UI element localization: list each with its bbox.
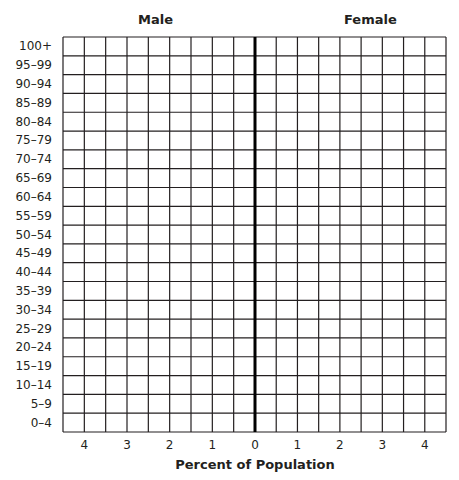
age-group-label: 5–9	[0, 397, 52, 411]
age-group-label: 40–44	[0, 265, 52, 279]
age-group-label: 65–69	[0, 171, 52, 185]
x-tick-label: 0	[245, 438, 265, 452]
age-group-label: 90–94	[0, 77, 52, 91]
x-tick-label: 2	[160, 438, 180, 452]
age-group-label: 70–74	[0, 152, 52, 166]
age-group-label: 55–59	[0, 209, 52, 223]
age-group-label: 50–54	[0, 228, 52, 242]
age-group-label: 15–19	[0, 359, 52, 373]
x-tick-label: 3	[117, 438, 137, 452]
x-tick-label: 3	[372, 438, 392, 452]
age-group-label: 80–84	[0, 115, 52, 129]
x-tick-label: 4	[74, 438, 94, 452]
age-group-label: 20–24	[0, 340, 52, 354]
age-group-label: 75–79	[0, 133, 52, 147]
age-group-label: 95–99	[0, 58, 52, 72]
x-tick-label: 1	[287, 438, 307, 452]
age-group-label: 0–4	[0, 416, 52, 430]
x-tick-label: 1	[202, 438, 222, 452]
pyramid-grid	[0, 0, 459, 480]
x-tick-label: 2	[330, 438, 350, 452]
x-axis-title: Percent of Population	[0, 457, 459, 472]
age-group-label: 45–49	[0, 246, 52, 260]
age-group-label: 60–64	[0, 190, 52, 204]
age-group-label: 85–89	[0, 96, 52, 110]
age-group-label: 35–39	[0, 284, 52, 298]
age-group-label: 30–34	[0, 303, 52, 317]
age-group-label: 25–29	[0, 322, 52, 336]
age-group-label: 10–14	[0, 378, 52, 392]
age-group-label: 100+	[0, 39, 52, 53]
x-tick-label: 4	[415, 438, 435, 452]
